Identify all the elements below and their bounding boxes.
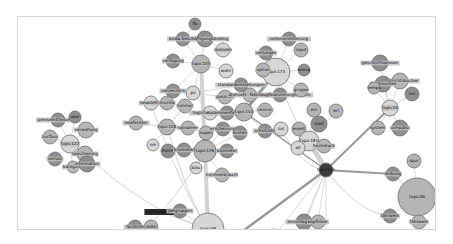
node-label: speicherung — [72, 151, 98, 156]
node-compdisc[interactable]: compdisc — [390, 120, 411, 136]
node-label: user — [70, 114, 79, 119]
node-tos[interactable]: tos — [405, 87, 419, 101]
node-surfbox[interactable]: surfbox — [41, 130, 58, 144]
node-label: fachliste — [126, 224, 144, 229]
node-label: hochdruck — [313, 143, 336, 148]
node-label: sol — [278, 126, 284, 131]
node-label: blau — [191, 165, 200, 170]
node-label: versorgen — [255, 50, 276, 55]
node-label: hotmail — [177, 103, 193, 108]
node-malt[interactable]: malt — [311, 116, 327, 132]
node-label: hatnamen — [177, 125, 199, 130]
edge-curve — [85, 154, 208, 229]
node-label: version — [257, 107, 273, 112]
node-topic48[interactable]: topic48 — [192, 213, 224, 230]
node-label: kilometer — [217, 148, 237, 153]
node-label: topic122 — [61, 141, 80, 146]
edge-heavy — [326, 170, 393, 174]
node-topic176[interactable]: topic176 — [194, 140, 216, 162]
node-option[interactable]: option — [256, 63, 271, 77]
edge — [318, 170, 326, 222]
node-label: information — [75, 161, 100, 166]
node-verwaltung[interactable]: verwaltung — [74, 122, 99, 138]
node-label: motoren — [214, 47, 232, 52]
node-label: seitenorientierung — [270, 36, 309, 41]
edge-curve — [326, 170, 390, 216]
node-label: tos — [409, 91, 415, 96]
node-label: lenkung — [385, 171, 402, 176]
node-flo[interactable]: flo — [189, 18, 201, 30]
node-label: input — [296, 47, 307, 52]
node-label: topic16 — [382, 105, 398, 110]
node-wahr[interactable]: wahr — [219, 64, 233, 78]
node-input[interactable]: input — [294, 43, 308, 57]
node-label: seite — [146, 224, 157, 229]
node-label: spur — [409, 158, 418, 163]
node-label: normverbrauch — [206, 172, 239, 177]
node-therm[interactable]: therm — [161, 144, 175, 158]
node-system[interactable]: system — [370, 121, 385, 135]
node-seite[interactable]: seite — [144, 220, 158, 230]
node-sol[interactable]: sol — [274, 122, 288, 136]
node-topic128[interactable]: topic128 — [157, 119, 177, 135]
node-ein[interactable]: ein — [307, 103, 321, 117]
node-lesefenster[interactable]: lesefenster — [123, 116, 150, 130]
nodes-layer: flobildauflösungbeschäftigungsbedingmoto… — [36, 18, 436, 230]
node-label: verlust — [48, 156, 63, 161]
node-topic16[interactable]: topic16 — [381, 100, 398, 116]
node-label: system — [370, 125, 385, 130]
node-label: compdisc — [390, 125, 411, 130]
node-nm[interactable]: nm — [147, 139, 159, 151]
node-hatnamen[interactable]: hatnamen — [177, 121, 199, 135]
node-label: schnitzeln — [254, 128, 276, 133]
node-label: topic176 — [196, 148, 215, 153]
node-fahrwerk[interactable]: fahrwerk — [409, 215, 429, 229]
node-kosten[interactable]: kosten — [233, 126, 248, 140]
node-label: nm — [150, 142, 157, 147]
node-wenig[interactable]: wenig — [298, 64, 311, 76]
node-label: event — [293, 126, 305, 131]
node-ps[interactable]: ps — [186, 86, 200, 100]
edge — [208, 229, 232, 230]
node-label: lesefenster — [124, 120, 148, 125]
node-label: gruppe — [294, 87, 309, 92]
node-label: flo — [192, 21, 198, 26]
node-erl[interactable]: erl — [329, 104, 343, 118]
node-verzeichnis[interactable]: verzeichnis — [160, 84, 187, 98]
node-label: malt — [314, 121, 324, 126]
node-spur[interactable]: spur — [407, 154, 421, 168]
node-normverbrauch[interactable]: normverbrauch — [206, 168, 239, 182]
node-label: ps — [191, 90, 196, 95]
node-reihe[interactable]: reihe — [267, 229, 281, 230]
node-label: therm — [162, 148, 175, 153]
node-verlust[interactable]: verlust — [46, 152, 63, 166]
node-motoren[interactable]: motoren — [214, 43, 232, 57]
node-all[interactable]: all — [291, 141, 305, 155]
node-geschichtswissen[interactable]: geschichtswissen — [360, 55, 399, 71]
node-lenkung[interactable]: lenkung — [384, 167, 401, 181]
node-version[interactable]: version — [256, 103, 273, 117]
node-schnitzeln[interactable]: schnitzeln — [253, 124, 278, 138]
node-label: kopfhörer — [308, 219, 328, 224]
node-fachliste[interactable]: fachliste — [124, 220, 146, 230]
node-blau[interactable]: blau — [190, 162, 202, 174]
node-kilometer[interactable]: kilometer — [216, 144, 238, 158]
node-zielgruppen[interactable]: zielgruppen — [167, 204, 194, 218]
node-verfügung[interactable]: verfügung — [162, 54, 184, 68]
node-label: tempo — [367, 85, 381, 90]
node-label: option — [256, 67, 270, 72]
node-label: wahr — [221, 68, 232, 73]
node-label: verzeichnis — [161, 88, 185, 93]
node-topic46[interactable]: topic46 — [398, 178, 436, 216]
node-label: standardeinstellungen — [218, 82, 265, 87]
node-label: erl — [333, 108, 338, 113]
network-graph[interactable]: flobildauflösungbeschäftigungsbedingmoto… — [18, 17, 436, 230]
node-label: all — [296, 145, 301, 150]
node-user[interactable]: user — [69, 111, 81, 123]
node-kilometer[interactable]: kilometer — [173, 143, 195, 157]
node-label: topic145 — [317, 167, 336, 172]
node-topic105[interactable]: topic105 — [191, 55, 211, 73]
node-topic110[interactable]: topic110 — [234, 103, 254, 121]
node-label: verfügung — [162, 58, 184, 63]
node-circle[interactable] — [267, 229, 281, 230]
